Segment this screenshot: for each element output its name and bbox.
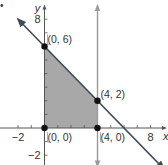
x-tick-label: −2: [12, 131, 25, 143]
y-tick-label: 8: [34, 13, 40, 25]
vertex-label: (0, 0): [48, 131, 73, 143]
y-tick-label: −2: [28, 149, 41, 161]
vertex-label: (4, 0): [101, 131, 126, 143]
vertex-label: (4, 2): [101, 88, 126, 100]
linear-inequality-graph: • −288−2xy(0, 6)(4, 2)(0, 0)(4, 0): [0, 0, 168, 165]
problem-marker: •: [0, 0, 4, 11]
x-tick-label: 8: [147, 131, 153, 143]
feasible-region: [45, 46, 98, 128]
boundary-line-x-plus-y-6: [18, 19, 164, 165]
vertex-label: (0, 6): [48, 33, 73, 45]
x-axis-label: x: [162, 130, 168, 142]
y-axis-label: y: [34, 2, 42, 14]
